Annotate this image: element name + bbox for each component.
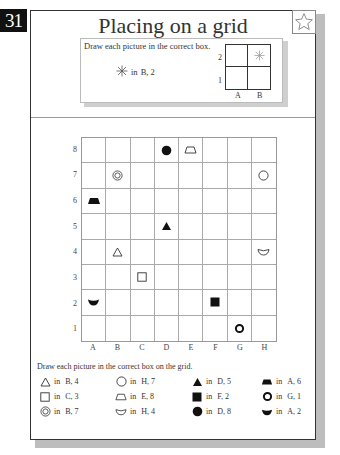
grid-cell-h2[interactable] — [252, 290, 276, 315]
grid-cell-e6[interactable] — [179, 189, 203, 214]
filled-bowl-icon — [87, 298, 100, 306]
mini-cell-a2[interactable] — [226, 45, 248, 67]
grid-cell-f6[interactable] — [203, 189, 227, 214]
grid-cell-a2[interactable] — [82, 290, 106, 315]
legend-item: inH, 7 — [115, 375, 191, 388]
grid-cell-b4[interactable] — [106, 240, 130, 265]
row-label: 6 — [71, 196, 79, 205]
grid-cell-e2[interactable] — [179, 290, 203, 315]
grid-cell-a1[interactable] — [82, 316, 106, 341]
grid-cell-h4[interactable] — [252, 240, 276, 265]
grid-cell-d8[interactable] — [155, 138, 179, 163]
grid-cell-b1[interactable] — [106, 316, 130, 341]
column-label: G — [228, 343, 252, 352]
grid-cell-g8[interactable] — [228, 138, 252, 163]
legend-position: D, 8 — [217, 407, 231, 416]
filled-square-icon — [210, 297, 220, 307]
grid-cell-e8[interactable] — [179, 138, 203, 163]
grid-cell-f7[interactable] — [203, 163, 227, 188]
grid-cell-f8[interactable] — [203, 138, 227, 163]
grid-cell-a7[interactable] — [82, 163, 106, 188]
mini-row-label: 1 — [218, 76, 222, 85]
grid-cell-g4[interactable] — [228, 240, 252, 265]
grid-cell-b2[interactable] — [106, 290, 130, 315]
legend-item: inF, 2 — [191, 390, 261, 403]
asterisk-star-icon — [254, 47, 265, 65]
grid-cell-b5[interactable] — [106, 214, 130, 239]
grid-cell-g7[interactable] — [228, 163, 252, 188]
filled-circle-icon — [191, 406, 203, 418]
grid-cell-h1[interactable] — [252, 316, 276, 341]
grid-cell-d3[interactable] — [155, 265, 179, 290]
grid-cell-f3[interactable] — [203, 265, 227, 290]
grid-cell-c2[interactable] — [131, 290, 155, 315]
grid-cell-c4[interactable] — [131, 240, 155, 265]
grid-cell-a3[interactable] — [82, 265, 106, 290]
grid-cell-d1[interactable] — [155, 316, 179, 341]
grid-cell-h7[interactable] — [252, 163, 276, 188]
grid-cell-d6[interactable] — [155, 189, 179, 214]
grid-cell-f1[interactable] — [203, 316, 227, 341]
double-circle-icon — [39, 406, 51, 418]
grid-cell-e4[interactable] — [179, 240, 203, 265]
legend-position: H, 4 — [141, 407, 155, 416]
grid-cell-h8[interactable] — [252, 138, 276, 163]
grid-cell-c5[interactable] — [131, 214, 155, 239]
grid-cell-a5[interactable] — [82, 214, 106, 239]
grid-cell-c8[interactable] — [131, 138, 155, 163]
legend-item: inH, 4 — [115, 405, 191, 418]
legend-position: D, 5 — [217, 377, 231, 386]
grid-cell-a8[interactable] — [82, 138, 106, 163]
double-circle-icon — [112, 170, 123, 181]
legend-position: G, 1 — [287, 392, 301, 401]
grid-cell-b8[interactable] — [106, 138, 130, 163]
grid-cell-b3[interactable] — [106, 265, 130, 290]
column-label: H — [253, 343, 277, 352]
legend-position: H, 7 — [141, 377, 155, 386]
legend-position: E, 8 — [141, 392, 154, 401]
grid-cell-b7[interactable] — [106, 163, 130, 188]
grid-cell-g1[interactable] — [228, 316, 252, 341]
grid-cell-a4[interactable] — [82, 240, 106, 265]
worksheet-frame: Placing on a grid Draw each picture in t… — [30, 10, 316, 440]
grid-cell-f5[interactable] — [203, 214, 227, 239]
grid-cell-c1[interactable] — [131, 316, 155, 341]
grid-cell-h6[interactable] — [252, 189, 276, 214]
grid-cell-d2[interactable] — [155, 290, 179, 315]
grid-cell-h5[interactable] — [252, 214, 276, 239]
mini-cell-a1[interactable] — [226, 67, 248, 89]
legend-item: inG, 1 — [261, 390, 321, 403]
outline-square-icon — [137, 272, 147, 282]
grid-cell-e3[interactable] — [179, 265, 203, 290]
grid-cell-b6[interactable] — [106, 189, 130, 214]
grid-cell-g2[interactable] — [228, 290, 252, 315]
grid-cell-d5[interactable] — [155, 214, 179, 239]
grid-cell-f4[interactable] — [203, 240, 227, 265]
grid-cell-e1[interactable] — [179, 316, 203, 341]
column-label: F — [204, 343, 228, 352]
legend-connector: in — [130, 377, 136, 386]
grid-cell-f2[interactable] — [203, 290, 227, 315]
grid-cell-h3[interactable] — [252, 265, 276, 290]
grid-cell-g5[interactable] — [228, 214, 252, 239]
grid-cell-c3[interactable] — [131, 265, 155, 290]
legend-item: inB, 7 — [39, 405, 115, 418]
grid-cell-e7[interactable] — [179, 163, 203, 188]
page-number: 31 — [0, 9, 27, 32]
example-box: Draw each picture in the correct box. in… — [80, 38, 283, 103]
mini-cell-b2[interactable] — [248, 45, 270, 67]
legend-connector: in — [130, 407, 136, 416]
row-label: 4 — [71, 247, 79, 256]
grid-cell-d7[interactable] — [155, 163, 179, 188]
grid-cell-d4[interactable] — [155, 240, 179, 265]
grid-cell-g3[interactable] — [228, 265, 252, 290]
grid-cell-e5[interactable] — [179, 214, 203, 239]
grid-cell-c6[interactable] — [131, 189, 155, 214]
mini-row-label: 2 — [218, 53, 222, 62]
mini-cell-b1[interactable] — [248, 67, 270, 89]
mini-col-label: A — [235, 91, 241, 100]
grid-cell-a6[interactable] — [82, 189, 106, 214]
outline-circle-icon — [115, 376, 127, 388]
grid-cell-g6[interactable] — [228, 189, 252, 214]
grid-cell-c7[interactable] — [131, 163, 155, 188]
